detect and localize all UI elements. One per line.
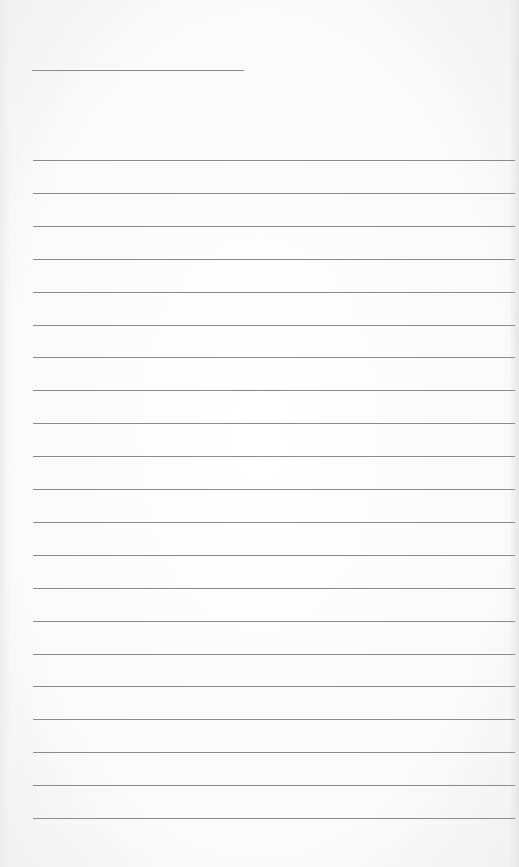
ruled-line xyxy=(33,456,515,457)
title-line xyxy=(32,70,244,71)
ruled-line xyxy=(33,489,515,490)
ruled-line xyxy=(33,226,515,227)
ruled-line xyxy=(33,259,515,260)
ruled-line xyxy=(33,325,515,326)
ruled-line xyxy=(33,752,515,753)
ruled-line xyxy=(33,292,515,293)
paper-edge-shadow-right xyxy=(509,0,519,867)
lined-paper-sheet xyxy=(0,0,519,867)
ruled-line xyxy=(33,522,515,523)
ruled-line xyxy=(33,423,515,424)
ruled-line xyxy=(33,357,515,358)
ruled-line xyxy=(33,588,515,589)
ruled-line xyxy=(33,785,515,786)
ruled-line xyxy=(33,818,515,819)
ruled-line xyxy=(33,621,515,622)
ruled-line xyxy=(33,686,515,687)
ruled-line xyxy=(33,719,515,720)
ruled-line xyxy=(33,390,515,391)
paper-edge-shadow-left xyxy=(0,0,10,867)
ruled-line xyxy=(33,654,515,655)
ruled-line xyxy=(33,193,515,194)
ruled-line xyxy=(33,555,515,556)
ruled-line xyxy=(33,160,515,161)
